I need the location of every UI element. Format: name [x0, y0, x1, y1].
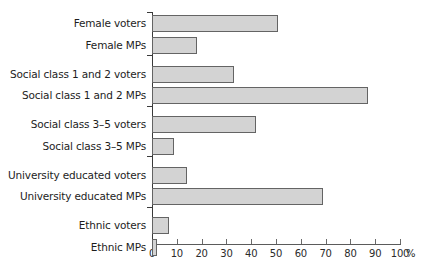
bar-chart: 0102030405060708090100 Female votersFema…	[0, 0, 425, 278]
category-label: Ethnic voters	[0, 217, 146, 234]
x-tick-70	[326, 239, 327, 244]
category-label: Social class 1 and 2 MPs	[0, 87, 146, 104]
x-axis-line	[152, 244, 401, 245]
category-label: Social class 3–5 voters	[0, 116, 146, 133]
x-tick-50	[276, 239, 277, 244]
y-group-tick-2	[147, 55, 153, 56]
category-label: University educated MPs	[0, 188, 146, 205]
x-tick-10	[177, 239, 178, 244]
y-group-tick-6	[147, 156, 153, 157]
bar	[152, 87, 368, 104]
bar	[152, 37, 197, 54]
y-group-tick-4	[147, 106, 153, 107]
x-tick-30	[226, 239, 227, 244]
bar	[152, 217, 169, 234]
category-label: Female voters	[0, 15, 146, 32]
bar	[152, 66, 234, 83]
x-axis-unit-label: %	[406, 248, 416, 259]
x-tick-90	[375, 239, 376, 244]
bar	[152, 116, 256, 133]
x-tick-80	[350, 239, 351, 244]
category-label: Social class 1 and 2 voters	[0, 66, 146, 83]
category-label: Social class 3–5 MPs	[0, 138, 146, 155]
bar	[152, 167, 187, 184]
y-group-tick-8	[147, 207, 153, 208]
bar	[152, 15, 278, 32]
x-tick-20	[202, 239, 203, 244]
category-label: University educated voters	[0, 167, 146, 184]
category-label: Female MPs	[0, 37, 146, 54]
x-tick-60	[301, 239, 302, 244]
y-axis-top-tick	[147, 12, 153, 13]
bar	[152, 138, 174, 155]
x-tick-40	[251, 239, 252, 244]
bar	[152, 239, 157, 256]
x-tick-100	[400, 239, 401, 244]
bar	[152, 188, 323, 205]
category-label: Ethnic MPs	[0, 239, 146, 256]
